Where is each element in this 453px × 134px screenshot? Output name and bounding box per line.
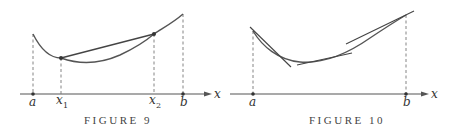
secant-line (61, 34, 154, 58)
caption-figure-10: FIGURE 10 (309, 114, 385, 126)
convex-curve (253, 15, 406, 62)
caption-figure-9: FIGURE 9 (84, 114, 152, 126)
axis-arrow-icon (421, 92, 429, 97)
figure-9: x a x 1 x 2 b FIGURE 9 (20, 14, 221, 126)
dashed-guides (33, 14, 183, 94)
axis-label-x: x (431, 87, 438, 101)
point-x2 (152, 32, 156, 36)
tick-label-a: a (249, 95, 256, 109)
convex-curve (33, 14, 183, 63)
tick-sub-x2: 2 (156, 101, 161, 110)
tangent-lines (250, 11, 414, 67)
figures-canvas: x a x 1 x 2 b FIGURE 9 x (0, 0, 453, 134)
tick-label-x1: x (56, 93, 63, 107)
figure-10: x a b FIGURE 10 (230, 11, 438, 126)
tick-sub-x1: 1 (63, 101, 68, 110)
tick-label-x2: x (149, 93, 156, 107)
tick-label-b: b (180, 95, 188, 109)
axis-label-x: x (214, 87, 221, 101)
axis-arrow-icon (204, 92, 212, 97)
tick-label-b: b (403, 95, 411, 109)
point-x1 (59, 56, 63, 60)
tick-label-a: a (29, 95, 36, 109)
